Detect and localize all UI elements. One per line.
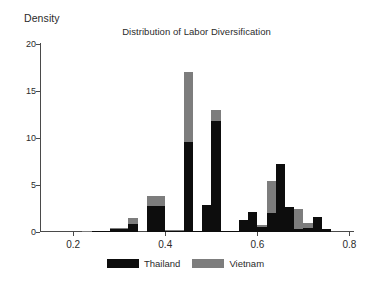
histogram-bar xyxy=(211,110,220,232)
histogram-bar-segment xyxy=(303,228,312,232)
legend-label: Thailand xyxy=(144,258,180,269)
x-tick-mark xyxy=(257,232,258,236)
histogram-bar-segment xyxy=(248,212,257,232)
histogram-bar xyxy=(128,218,137,232)
histogram-bar-segment xyxy=(156,206,165,232)
x-tick-mark xyxy=(165,232,166,236)
histogram-bar-segment xyxy=(230,231,239,232)
histogram-bar-segment xyxy=(267,213,276,232)
y-tick-label: 5 xyxy=(18,180,36,190)
legend-entry: Thailand xyxy=(107,258,180,269)
histogram-bar-segment xyxy=(294,229,303,232)
legend-swatch-thailand xyxy=(107,259,139,268)
histogram-bar xyxy=(82,231,91,232)
histogram-bar-segment xyxy=(128,224,137,232)
histogram-bar xyxy=(101,231,110,232)
histogram-bar xyxy=(313,217,322,232)
histogram-bar xyxy=(322,229,331,232)
histogram-bar xyxy=(202,205,211,232)
y-tick-mark xyxy=(36,138,40,139)
histogram-bar-segment xyxy=(276,164,285,232)
y-tick-mark xyxy=(36,44,40,45)
histogram-bar xyxy=(303,223,312,232)
y-tick-mark xyxy=(36,232,40,233)
histogram-bar xyxy=(267,181,276,232)
histogram-bar-segment xyxy=(211,121,220,232)
histogram-bar-segment xyxy=(221,231,230,232)
histogram-bar-segment xyxy=(174,231,183,232)
y-axis-label: Density xyxy=(24,12,60,24)
x-tick-label: 0.8 xyxy=(342,239,356,250)
histogram-bar-segment xyxy=(313,217,322,232)
y-tick-label: 10 xyxy=(18,133,36,143)
histogram-bar xyxy=(276,164,285,232)
chart-figure: Density Distribution of Labor Diversific… xyxy=(0,0,371,285)
histogram-bar xyxy=(257,225,266,232)
x-tick-label: 0.4 xyxy=(158,239,172,250)
legend-entry: Vietnam xyxy=(192,258,264,269)
y-tick-label: 0 xyxy=(18,227,36,237)
y-tick-mark xyxy=(36,91,40,92)
y-tick-mark xyxy=(36,185,40,186)
x-tick-mark xyxy=(73,232,74,236)
chart-title: Distribution of Labor Diversification xyxy=(0,26,371,37)
histogram-bar xyxy=(230,231,239,232)
histogram-bar xyxy=(174,230,183,232)
histogram-bar-segment xyxy=(101,231,110,232)
histogram-bar-segment xyxy=(82,231,91,232)
histogram-bar xyxy=(165,230,174,232)
legend-label: Vietnam xyxy=(229,258,264,269)
y-tick-label: 15 xyxy=(18,86,36,96)
histogram-bar xyxy=(119,228,128,232)
legend-swatch-vietnam xyxy=(192,259,224,268)
chart-legend: ThailandVietnam xyxy=(0,258,371,269)
histogram-bar xyxy=(147,196,156,232)
histogram-bar-segment xyxy=(110,229,119,232)
histogram-bar xyxy=(294,209,303,232)
histogram-bar-segment xyxy=(184,142,193,232)
histogram-bar xyxy=(92,231,101,232)
histogram-bar xyxy=(285,207,294,232)
histogram-bar xyxy=(193,231,202,232)
plot-area xyxy=(41,44,354,232)
histogram-bar-segment xyxy=(257,227,266,232)
histogram-bar-segment xyxy=(165,231,174,232)
histogram-bar xyxy=(221,231,230,232)
histogram-bar-segment xyxy=(322,229,331,232)
histogram-bar-segment xyxy=(119,229,128,232)
x-tick-mark xyxy=(349,232,350,236)
histogram-bar xyxy=(184,72,193,232)
histogram-bar xyxy=(110,228,119,232)
histogram-bar-segment xyxy=(202,205,211,232)
histogram-bar xyxy=(156,196,165,232)
histogram-bar-segment xyxy=(239,220,248,232)
histogram-bar xyxy=(239,220,248,232)
histogram-bar xyxy=(248,212,257,232)
x-tick-label: 0.2 xyxy=(66,239,80,250)
histogram-bar-segment xyxy=(92,231,101,232)
histogram-bar-segment xyxy=(147,206,156,232)
x-tick-label: 0.6 xyxy=(250,239,264,250)
histogram-bar-segment xyxy=(285,207,294,232)
y-tick-label: 20 xyxy=(18,39,36,49)
histogram-bar-segment xyxy=(193,231,202,232)
